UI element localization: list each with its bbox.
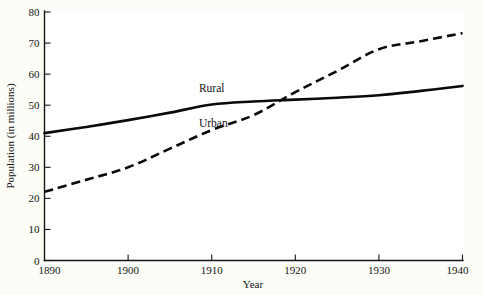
y-tick-label-60: 60 [29,68,41,80]
series-label-rural: Rural [199,82,225,94]
x-axis-tick-labels: 189019001910192019301940 [39,264,470,276]
y-axis-tick-labels: 01020304050607080 [29,6,41,267]
y-tick-label-20: 20 [29,192,41,204]
line-chart: 01020304050607080 1890190019101920193019… [0,0,483,295]
y-tick-label-30: 30 [29,161,41,173]
x-tick-label-1920: 1920 [284,264,307,276]
x-tick-label-1890: 1890 [39,264,62,276]
x-tick-label-1940: 1940 [447,264,470,276]
x-tick-label-1900: 1900 [117,264,140,276]
plot-background [44,10,464,261]
y-tick-label-40: 40 [29,130,41,142]
x-tick-label-1930: 1930 [368,264,391,276]
x-axis-title: Year [243,278,264,290]
x-tick-label-1910: 1910 [201,264,224,276]
series-label-urban: Urban [199,117,228,129]
y-tick-label-80: 80 [29,6,41,18]
y-tick-label-70: 70 [29,37,41,49]
y-axis-title: Population (in millions) [4,83,17,188]
y-tick-label-10: 10 [29,223,41,235]
y-tick-label-50: 50 [29,99,41,111]
chart-figure: 01020304050607080 1890190019101920193019… [0,0,483,295]
